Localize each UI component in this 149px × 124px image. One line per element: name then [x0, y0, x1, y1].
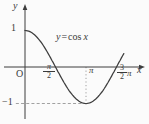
x-tick-3-halves-pi-fraction: 3 2 [117, 64, 127, 81]
three-halves-denominator: 2 [117, 73, 127, 81]
curve-equation-lhs: y [56, 31, 60, 42]
cosine-graph-figure: y 1 y=cosx O π 2 π 3 2 π x −1 [0, 0, 149, 124]
y-axis-label: y [13, 1, 17, 11]
curve-equation-equals: = [61, 31, 67, 42]
y-tick-minus-1-label: −1 [2, 97, 13, 107]
pi-over-2-denominator: 2 [43, 72, 55, 80]
x-tick-pi-label: π [89, 66, 94, 75]
origin-label: O [16, 69, 23, 79]
curve-equation-function: cos [68, 31, 81, 42]
y-tick-1-label: 1 [11, 23, 16, 33]
curve-equation-arg: x [83, 31, 87, 42]
cosine-plot-canvas [0, 0, 149, 124]
x-tick-pi-over-2-label: π 2 [43, 63, 55, 80]
x-axis-label: x [137, 65, 141, 75]
curve-equation-label: y=cosx [56, 32, 88, 42]
x-tick-3-halves-pi-suffix: π [127, 69, 132, 78]
